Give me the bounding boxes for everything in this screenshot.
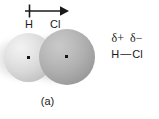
structure-atom-chlorine: Cl (132, 48, 142, 60)
dipole-moment-arrow-icon (24, 3, 70, 19)
hcl-structure-row: H—Cl (95, 48, 159, 60)
chlorine-nucleus-dot (65, 55, 68, 58)
partial-charge-row: δ+δ− (95, 31, 159, 46)
hydrogen-nucleus-dot (27, 56, 30, 59)
partial-charge-negative: δ− (130, 31, 142, 46)
bond-dash-icon: — (120, 47, 131, 59)
structure-atom-hydrogen: H (111, 48, 119, 60)
panel-a-caption: (a) (0, 95, 95, 107)
hcl-polarity-figure: H Cl (a) δ+δ− H—Cl (b) (0, 0, 159, 119)
panel-b-partial-charge-structure: δ+δ− H—Cl (b) (95, 0, 159, 119)
partial-charge-positive: δ+ (112, 31, 124, 46)
panel-a-space-filling-model: H Cl (a) (0, 0, 95, 119)
